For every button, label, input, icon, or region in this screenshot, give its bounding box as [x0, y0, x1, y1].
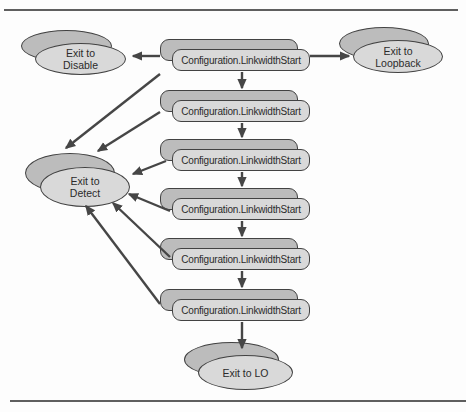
exit-detect-label: Exit to Detect: [70, 175, 100, 199]
state-box-2: Configuration.LinkwidthStart: [172, 100, 310, 122]
arrow-state2-to-exit-detect: [98, 112, 160, 151]
exit-ellipse-detect: Exit to Detect: [40, 167, 130, 207]
state-box-4-label: Configuration.LinkwidthStart: [181, 204, 300, 215]
state-box-6-label: Configuration.LinkwidthStart: [181, 305, 300, 316]
exit-loopback-label: Exit to Loopback: [375, 45, 421, 69]
state-box-5: Configuration.LinkwidthStart: [172, 248, 310, 270]
exit-ellipse-disable: Exit to Disable: [35, 43, 126, 75]
exit-ellipse-loopback: Exit to Loopback: [353, 40, 443, 73]
exit-l0-label: Exit to LO: [222, 367, 268, 379]
exit-disable-label: Exit to Disable: [63, 47, 98, 71]
arrow-state3-to-exit-detect: [133, 161, 166, 174]
state-box-2-label: Configuration.LinkwidthStart: [181, 106, 300, 117]
state-box-3: Configuration.LinkwidthStart: [172, 149, 310, 171]
state-box-1-label: Configuration.LinkwidthStart: [181, 55, 300, 66]
arrow-state6-to-exit-detect: [86, 206, 160, 304]
state-box-1: Configuration.LinkwidthStart: [172, 49, 310, 71]
bottom-rule: [10, 400, 466, 402]
state-box-3-label: Configuration.LinkwidthStart: [181, 155, 300, 166]
exit-ellipse-l0: Exit to LO: [198, 355, 293, 390]
state-box-6: Configuration.LinkwidthStart: [172, 299, 310, 321]
state-box-4: Configuration.LinkwidthStart: [172, 198, 310, 220]
arrow-state1-to-exit-detect: [66, 74, 160, 148]
top-rule: [4, 9, 458, 11]
state-box-5-label: Configuration.LinkwidthStart: [181, 254, 300, 265]
state-diagram-figure: Exit to Disable Exit to Loopback Exit to…: [0, 0, 466, 412]
